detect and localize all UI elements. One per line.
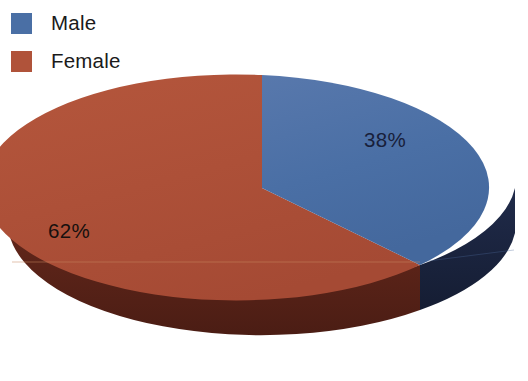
slice-value-female: 62% [48, 219, 90, 243]
legend-swatch-male [11, 13, 32, 34]
pie-chart: Male Female 38% 62% [0, 0, 528, 381]
legend-item-female[interactable]: Female [11, 42, 121, 80]
slice-value-male: 38% [364, 128, 406, 152]
legend-swatch-female [11, 51, 32, 72]
legend-item-male[interactable]: Male [11, 4, 121, 42]
legend-label-male: Male [51, 13, 96, 34]
legend-label-female: Female [51, 51, 121, 72]
legend: Male Female [11, 4, 121, 80]
